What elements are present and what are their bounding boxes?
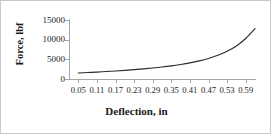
x-tick-mark <box>78 79 79 83</box>
y-tick-label: 10000 <box>23 35 65 44</box>
x-tick-mark <box>209 79 210 83</box>
x-tick-mark <box>190 79 191 83</box>
y-tick-mark <box>65 20 69 21</box>
x-tick-mark <box>97 79 98 83</box>
x-tick-label: 0.23 <box>124 85 144 95</box>
x-tick-mark <box>134 79 135 83</box>
y-tick-mark <box>65 59 69 60</box>
x-tick-label: 0.53 <box>217 85 237 95</box>
y-axis-line <box>69 19 70 80</box>
x-axis-tick-labels: 0.050.110.170.230.290.350.410.470.530.59 <box>57 85 267 97</box>
y-tick-label: 5000 <box>23 55 65 64</box>
chart-figure: Force, lbf 050001000015000 0.050.110.170… <box>0 0 271 134</box>
y-tick-mark <box>65 40 69 41</box>
x-axis-title: Deflection, in <box>1 105 271 117</box>
x-tick-mark <box>153 79 154 83</box>
x-tick-mark <box>171 79 172 83</box>
x-tick-label: 0.17 <box>106 85 126 95</box>
y-tick-label: 0 <box>23 75 65 84</box>
x-tick-label: 0.11 <box>87 85 107 95</box>
x-tick-mark <box>116 79 117 83</box>
x-tick-label: 0.41 <box>180 85 200 95</box>
x-tick-label: 0.59 <box>236 85 256 95</box>
x-tick-label: 0.05 <box>68 85 88 95</box>
x-tick-mark <box>246 79 247 83</box>
y-tick-label: 15000 <box>23 16 65 25</box>
y-tick-mark <box>65 79 69 80</box>
x-tick-mark <box>227 79 228 83</box>
x-tick-label: 0.29 <box>143 85 163 95</box>
x-tick-label: 0.35 <box>161 85 181 95</box>
x-tick-label: 0.47 <box>199 85 219 95</box>
